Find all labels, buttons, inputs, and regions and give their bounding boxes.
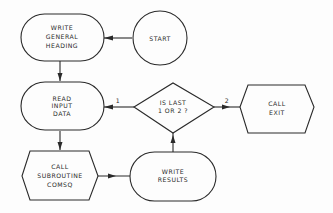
node-read-input-data: READ INPUT DATA [21, 82, 104, 130]
svg-text:CALL: CALL [268, 100, 286, 107]
flowchart: 1 2 START WRITE GENERAL HEADING READ INP… [0, 0, 333, 213]
svg-text:WRITE: WRITE [51, 24, 73, 31]
edge-start-to-heading [104, 36, 132, 41]
svg-text:RESULTS: RESULTS [158, 176, 188, 183]
svg-text:START: START [149, 35, 171, 42]
edge-heading-to-read [58, 61, 63, 81]
svg-text:CALL: CALL [51, 163, 69, 170]
svg-text:DATA: DATA [53, 110, 71, 117]
svg-text:INPUT: INPUT [52, 102, 73, 109]
edge-decision-to-read [104, 105, 134, 110]
edge-subroutine-to-results [97, 174, 130, 179]
svg-text:READ: READ [52, 95, 71, 102]
svg-text:SUBROUTINE: SUBROUTINE [37, 172, 83, 179]
svg-text:EXIT: EXIT [269, 109, 285, 116]
svg-text:COMSQ: COMSQ [47, 181, 73, 188]
edge-read-to-subroutine [58, 131, 63, 150]
svg-text:GENERAL: GENERAL [46, 33, 79, 40]
node-call-subroutine-comsq: CALL SUBROUTINE COMSQ [22, 151, 98, 200]
svg-text:1 OR 2 ?: 1 OR 2 ? [158, 107, 188, 114]
edge-results-to-decision [171, 133, 176, 153]
edge-decision-to-exit [214, 105, 240, 110]
edge-label-2: 2 [225, 97, 229, 104]
node-write-general-heading: WRITE GENERAL HEADING [21, 14, 104, 61]
node-write-results: WRITE RESULTS [130, 152, 216, 201]
edge-label-1: 1 [116, 97, 120, 104]
svg-text:IS LAST: IS LAST [160, 99, 187, 106]
node-decision-is-last: IS LAST 1 OR 2 ? [134, 83, 214, 133]
svg-text:WRITE: WRITE [162, 168, 184, 175]
node-start: START [133, 11, 187, 65]
svg-text:HEADING: HEADING [46, 42, 78, 49]
node-call-exit: CALL EXIT [240, 85, 314, 133]
